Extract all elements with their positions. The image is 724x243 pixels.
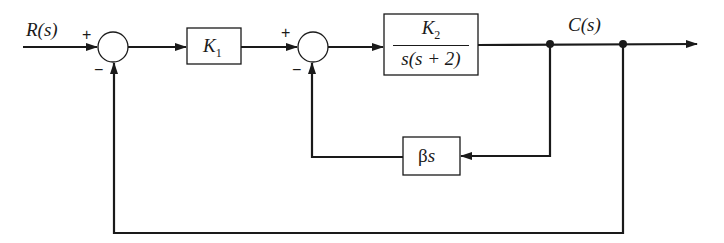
- sum2-minus-sign: −: [292, 62, 301, 78]
- summing-junction-1: [98, 32, 128, 62]
- sum1-minus-sign: −: [94, 62, 103, 78]
- block-diagram: R(s) C(s) + − + − K1 K2 s(s + 2) βs: [0, 0, 724, 243]
- sum1-plus-sign: +: [82, 27, 91, 43]
- output-label: C(s): [568, 15, 601, 34]
- output-signal-line: [478, 44, 697, 45]
- summing-junction-2: [298, 32, 328, 62]
- inner-feedback-line-out: [312, 63, 403, 157]
- plant-numerator: K2: [422, 17, 441, 45]
- pickoff-point-outer: [619, 40, 627, 48]
- k1-label: K1: [203, 36, 222, 59]
- sum2-plus-sign: +: [281, 25, 290, 41]
- pickoff-point-inner: [546, 40, 554, 48]
- diagram-lines: [0, 0, 724, 243]
- plant-denominator: s(s + 2): [401, 46, 460, 70]
- tach-label: βs: [418, 146, 435, 165]
- input-label: R(s): [26, 20, 58, 39]
- plant-transfer-function: K2 s(s + 2): [393, 17, 469, 70]
- outer-feedback-line: [114, 44, 623, 233]
